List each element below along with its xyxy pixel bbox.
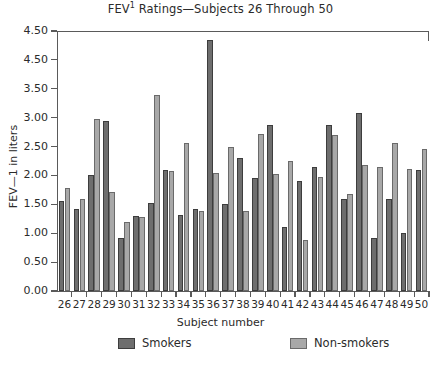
bar-non-smokers-subject-26: [65, 188, 71, 291]
legend-swatch-smokers: [118, 338, 135, 349]
bar-non-smokers-subject-46: [362, 165, 368, 291]
bar-smokers-subject-44: [326, 125, 332, 291]
x-axis-tick: [71, 291, 72, 297]
y-axis-tick-label: 3.00: [10, 112, 48, 123]
bar-smokers-subject-49: [401, 233, 407, 291]
x-axis-line: [57, 291, 429, 292]
bar-smokers-subject-27: [74, 209, 80, 291]
bar-non-smokers-subject-41: [288, 161, 294, 291]
x-axis-tick: [369, 291, 370, 297]
bar-non-smokers-subject-42: [303, 240, 309, 291]
bar-non-smokers-subject-36: [213, 173, 219, 291]
bar-non-smokers-subject-34: [184, 143, 190, 291]
bar-smokers-subject-28: [88, 175, 94, 291]
bar-non-smokers-subject-43: [318, 177, 324, 291]
y-axis-tick-label: 2.50: [10, 141, 48, 152]
bar-smokers-subject-29: [103, 121, 109, 291]
y-axis-tick-label: 3.50: [10, 83, 48, 94]
bar-non-smokers-subject-49: [407, 169, 413, 291]
x-axis-tick: [235, 291, 236, 297]
bar-smokers-subject-37: [222, 204, 228, 291]
bar-non-smokers-subject-30: [124, 222, 130, 291]
bar-smokers-subject-41: [282, 227, 288, 291]
bar-non-smokers-subject-33: [169, 171, 175, 291]
x-axis-tick: [86, 291, 87, 297]
legend-label-non-smokers: Non-smokers: [314, 336, 389, 350]
legend-swatch-non-smokers: [290, 338, 307, 349]
y-axis-tick-label: 4.50: [10, 54, 48, 65]
bar-non-smokers-subject-40: [273, 174, 279, 291]
bar-non-smokers-subject-29: [109, 192, 115, 291]
legend-entry-non-smokers[interactable]: Non-smokers: [290, 336, 389, 350]
x-axis-tick: [309, 291, 310, 297]
x-axis-tick: [131, 291, 132, 297]
bars-layer: [57, 31, 429, 291]
bar-smokers-subject-38: [237, 158, 243, 291]
bar-smokers-subject-26: [59, 201, 65, 291]
bar-smokers-subject-32: [148, 203, 154, 291]
x-axis-tick: [428, 291, 429, 297]
y-axis-tick-label: 1.00: [10, 227, 48, 238]
bar-non-smokers-subject-44: [332, 135, 338, 291]
x-axis-tick: [116, 291, 117, 297]
bar-non-smokers-subject-28: [94, 119, 100, 291]
legend-entry-smokers[interactable]: Smokers: [118, 336, 192, 350]
bar-smokers-subject-43: [312, 167, 318, 291]
bar-smokers-subject-48: [386, 199, 392, 291]
x-axis-tick: [250, 291, 251, 297]
bar-non-smokers-subject-37: [228, 147, 234, 291]
legend-label-smokers: Smokers: [142, 336, 192, 350]
x-axis-tick: [146, 291, 147, 297]
x-axis-tick: [205, 291, 206, 297]
x-axis-title: Subject number: [0, 316, 441, 329]
x-axis-tick: [175, 291, 176, 297]
bar-non-smokers-subject-31: [139, 217, 145, 291]
x-axis-tick-label: 50: [411, 299, 433, 310]
bar-non-smokers-subject-48: [392, 143, 398, 291]
bar-smokers-subject-42: [297, 181, 303, 291]
bar-non-smokers-subject-39: [258, 134, 264, 291]
x-axis-tick: [190, 291, 191, 297]
chart-title-main: FEV: [108, 2, 130, 16]
x-axis-tick: [414, 291, 415, 297]
x-axis-tick: [294, 291, 295, 297]
bar-smokers-subject-35: [193, 209, 199, 291]
chart-figure: FEV1 Ratings—Subjects 26 Through 50 FEV—…: [0, 0, 441, 366]
bar-smokers-subject-30: [118, 238, 124, 291]
bar-smokers-subject-47: [371, 238, 377, 291]
bar-non-smokers-subject-45: [347, 194, 353, 291]
bar-non-smokers-subject-38: [243, 211, 249, 291]
bar-smokers-subject-39: [252, 178, 258, 291]
x-axis-tick: [384, 291, 385, 297]
bar-smokers-subject-40: [267, 125, 273, 291]
x-axis-tick: [399, 291, 400, 297]
bar-non-smokers-subject-47: [377, 167, 383, 291]
bar-smokers-subject-50: [416, 170, 422, 291]
y-axis-tick-label: 4.50: [10, 25, 48, 36]
chart-title: FEV1 Ratings—Subjects 26 Through 50: [0, 2, 441, 16]
y-axis-tick-label: 1.50: [10, 198, 48, 209]
bar-smokers-subject-33: [163, 170, 169, 291]
x-axis-tick: [324, 291, 325, 297]
bar-non-smokers-subject-35: [199, 211, 205, 291]
x-axis-tick: [339, 291, 340, 297]
y-axis-tick-label: 0.50: [10, 256, 48, 267]
x-axis-tick: [265, 291, 266, 297]
bar-smokers-subject-46: [356, 113, 362, 291]
y-axis-tick-label: 2.00: [10, 169, 48, 180]
x-axis-tick: [280, 291, 281, 297]
bar-smokers-subject-34: [178, 215, 184, 291]
x-axis-tick: [220, 291, 221, 297]
bar-non-smokers-subject-27: [80, 199, 86, 291]
x-axis-tick: [354, 291, 355, 297]
bar-smokers-subject-31: [133, 216, 139, 291]
bar-smokers-subject-36: [207, 40, 213, 291]
x-axis-tick: [161, 291, 162, 297]
chart-legend: Smokers Non-smokers: [0, 336, 441, 358]
chart-title-rest: Ratings—Subjects 26 Through 50: [135, 2, 333, 16]
y-axis-tick-label: 0.00: [10, 285, 48, 296]
bar-non-smokers-subject-50: [422, 149, 428, 291]
bar-non-smokers-subject-32: [154, 95, 160, 291]
x-axis-tick: [101, 291, 102, 297]
bar-smokers-subject-45: [341, 199, 347, 291]
